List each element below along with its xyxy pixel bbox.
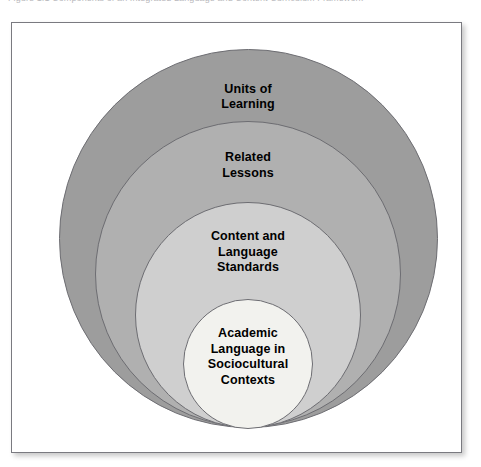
figure-caption-text: Figure 1.1 Components of an Integrated L… — [8, 0, 363, 3]
nested-circles-diagram: Units of Learning Related Lessons Conten… — [12, 23, 463, 454]
circle-label-related-lessons: Related Lessons — [222, 150, 273, 181]
circle-label-content-and-language-standards: Content and Language Standards — [211, 229, 285, 276]
circle-label-academic-language-in-sociocultural-contexts: Academic Language in Sociocultural Conte… — [208, 326, 288, 388]
figure-frame: Units of Learning Related Lessons Conten… — [11, 22, 462, 453]
figure-caption-strip: Figure 1.1 Components of an Integrated L… — [0, 0, 481, 12]
circle-academic-language-in-sociocultural-contexts: Academic Language in Sociocultural Conte… — [183, 299, 313, 429]
circle-label-units-of-learning: Units of Learning — [221, 82, 275, 113]
